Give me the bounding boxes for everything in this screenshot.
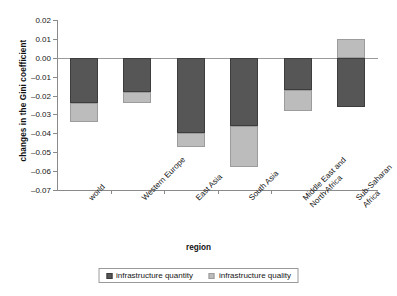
bar-segment-quality [337,39,365,58]
y-tick-mark [53,114,57,115]
y-tick-mark [53,171,57,172]
bar-segment-quantity [123,58,151,92]
bar-segment-quantity [337,58,365,107]
bar-segment-quality [177,133,205,146]
y-axis-title: changes in the Gini coefficient [19,16,28,186]
bar-segment-quantity [284,58,312,90]
legend-item-quantity: infrastructure quantity [106,271,193,280]
zero-baseline [57,58,378,59]
chart-legend: infrastructure quantity infrastructure q… [98,268,299,283]
y-tick-label: –0.07 [31,186,51,195]
y-tick-label: –0.05 [31,148,51,157]
bar-chart: changes in the Gini coefficient 0.020.01… [0,0,397,296]
x-tick-mark [218,190,219,194]
bar-segment-quality [230,126,258,168]
y-tick-mark [53,20,57,21]
y-tick-label: 0.01 [35,34,51,43]
legend-item-quality: infrastructure quality [209,271,291,280]
y-axis-line [57,20,58,190]
legend-label-quantity: infrastructure quantity [116,271,193,280]
dark-gray-swatch-icon [106,273,112,279]
y-tick-mark [53,152,57,153]
y-tick-label: 0.00 [35,53,51,62]
bar-segment-quality [123,92,151,103]
bar-segment-quantity [177,58,205,134]
legend-label-quality: infrastructure quality [219,271,291,280]
y-tick-label: –0.01 [31,72,51,81]
y-tick-label: 0.02 [35,16,51,25]
bar-segment-quality [70,103,98,122]
y-tick-mark [53,77,57,78]
bar-segment-quality [284,90,312,111]
x-axis-title: region [0,243,397,252]
y-tick-label: –0.04 [31,129,51,138]
light-gray-swatch-icon [209,273,215,279]
y-tick-label: –0.03 [31,110,51,119]
y-tick-label: –0.06 [31,167,51,176]
x-tick-mark [111,190,112,194]
y-tick-label: –0.02 [31,91,51,100]
bar-segment-quantity [230,58,258,126]
y-tick-mark [53,133,57,134]
plot-area: 0.020.010.00–0.01–0.02–0.03–0.04–0.05–0.… [57,20,378,190]
y-tick-mark [53,39,57,40]
x-tick-mark [164,190,165,194]
y-tick-mark [53,190,57,191]
y-tick-mark [53,96,57,97]
bar-segment-quantity [70,58,98,103]
x-tick-mark [271,190,272,194]
